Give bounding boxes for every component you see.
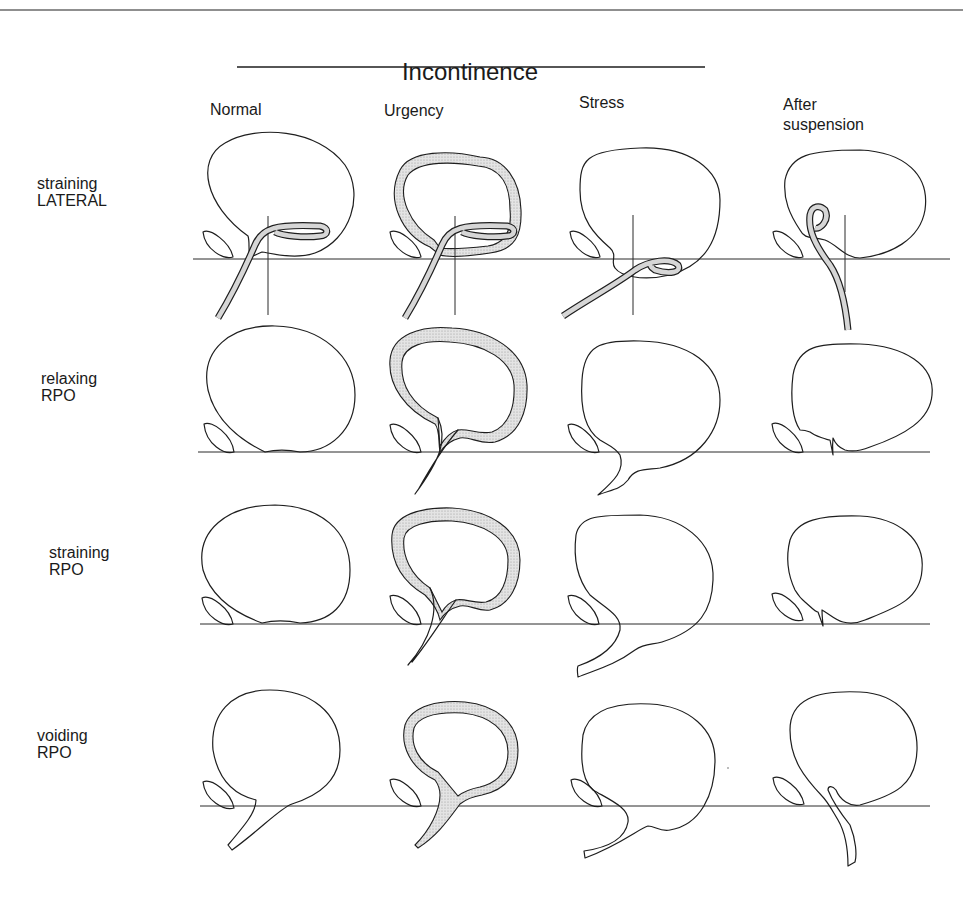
bladder-stress-relaxing-rpo — [568, 341, 720, 495]
bladder-normal-straining-lateral — [203, 132, 354, 318]
bladder-after-suspension-straining-lateral — [773, 150, 926, 330]
bladder-normal-straining-rpo — [202, 505, 350, 625]
bladder-urgency-voiding-rpo — [390, 702, 518, 848]
bladder-stress-straining-rpo — [568, 515, 713, 677]
diagram-canvas — [0, 0, 963, 897]
bladder-after-suspension-straining-rpo — [772, 516, 922, 626]
bladder-urgency-straining-rpo — [390, 508, 520, 665]
bladder-normal-relaxing-rpo — [204, 326, 355, 453]
bladder-stress-voiding-rpo — [571, 704, 729, 858]
bladder-urgency-straining-lateral — [390, 153, 521, 318]
bladder-stress-straining-lateral — [563, 148, 720, 316]
bladder-urgency-relaxing-rpo — [390, 327, 527, 494]
bladder-normal-voiding-rpo — [203, 690, 340, 850]
bladder-after-suspension-relaxing-rpo — [772, 344, 932, 455]
bladder-after-suspension-voiding-rpo — [773, 692, 917, 866]
